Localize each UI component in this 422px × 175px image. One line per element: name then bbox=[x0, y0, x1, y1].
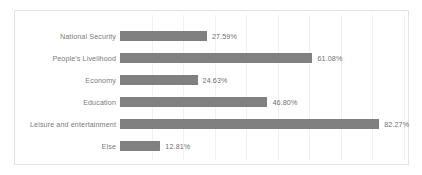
bar-value-label: 12.81% bbox=[165, 142, 190, 151]
bar bbox=[120, 31, 207, 41]
bar-row: Else12.81% bbox=[120, 135, 408, 157]
chart-frame: National Security27.59%People's Liveliho… bbox=[14, 10, 409, 165]
bar-value-label: 82.27% bbox=[384, 120, 409, 129]
category-label: Education bbox=[83, 98, 116, 107]
category-label: Economy bbox=[85, 76, 116, 85]
bar bbox=[120, 75, 198, 85]
bar-series: National Security27.59%People's Liveliho… bbox=[120, 11, 408, 164]
category-label: People's Livelihood bbox=[52, 54, 116, 63]
bar bbox=[120, 141, 160, 151]
bar-value-label: 46.80% bbox=[272, 98, 297, 107]
bar-row: People's Livelihood61.08% bbox=[120, 47, 408, 69]
bar-value-label: 61.08% bbox=[317, 54, 342, 63]
bar-row: Leisure and entertainment82.27% bbox=[120, 113, 408, 135]
bar-value-label: 27.59% bbox=[212, 32, 237, 41]
category-label: National Security bbox=[60, 32, 116, 41]
bar bbox=[120, 119, 379, 129]
bar-row: Economy24.63% bbox=[120, 69, 408, 91]
bar-value-label: 24.63% bbox=[203, 76, 228, 85]
plot-area: National Security27.59%People's Liveliho… bbox=[120, 11, 408, 164]
bar bbox=[120, 97, 267, 107]
bar-row: National Security27.59% bbox=[120, 25, 408, 47]
bar bbox=[120, 53, 312, 63]
category-label: Else bbox=[102, 142, 116, 151]
category-label: Leisure and entertainment bbox=[30, 120, 116, 129]
bar-row: Education46.80% bbox=[120, 91, 408, 113]
